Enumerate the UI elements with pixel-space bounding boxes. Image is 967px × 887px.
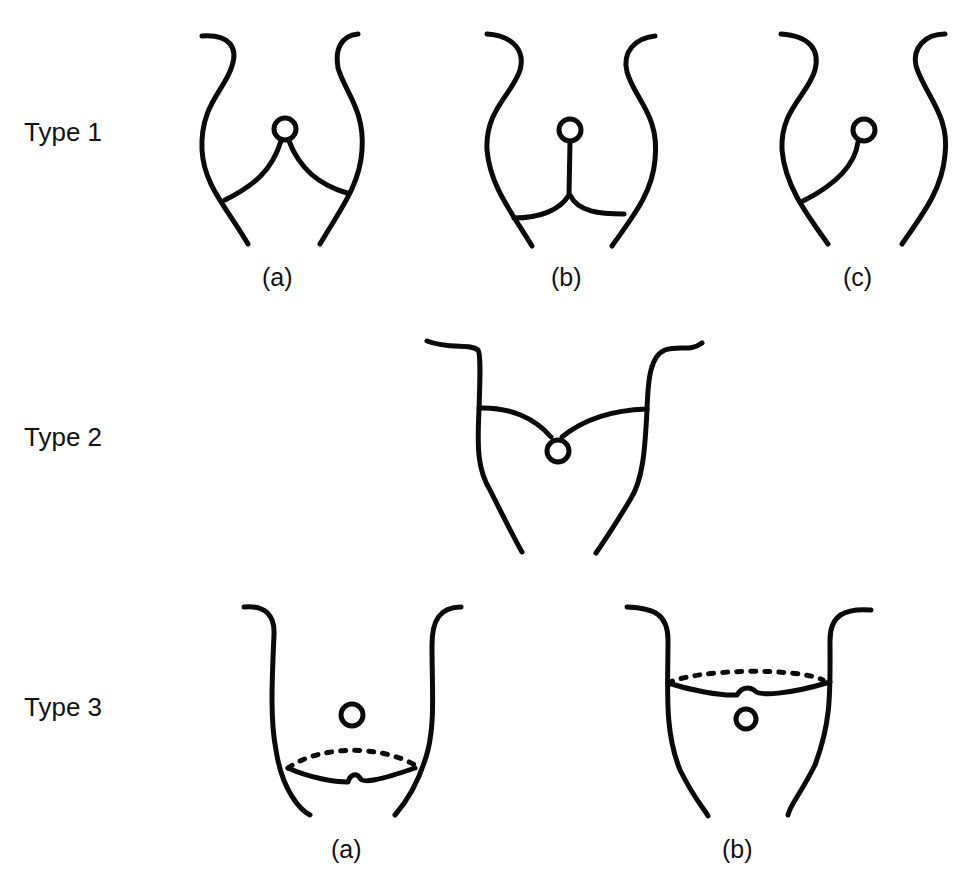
figure-type1-c (781, 34, 946, 244)
figure-type1-a (202, 34, 362, 244)
figure-type1-b (487, 34, 656, 246)
figure-type2 (427, 341, 702, 553)
figure-type3-b (627, 607, 871, 816)
figure-type3-a (244, 607, 461, 815)
diagram-canvas (0, 0, 967, 887)
